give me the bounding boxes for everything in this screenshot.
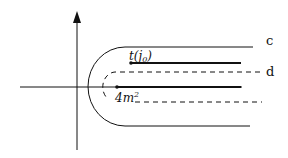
label-d: d	[266, 64, 274, 79]
cut-lower-branch-point	[115, 85, 119, 89]
label-4m2: 4m2	[114, 90, 139, 105]
label-c: c	[266, 33, 273, 48]
contour-diagram: c d t(j0) 4m2	[0, 0, 288, 158]
vertical-axis-arrow-icon	[73, 11, 81, 23]
label-t-j0: t(j0)	[129, 49, 152, 64]
